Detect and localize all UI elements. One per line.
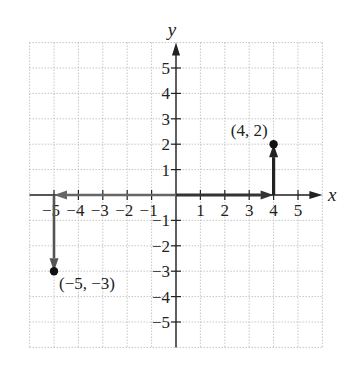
y-axis-arrow-icon — [172, 43, 180, 56]
y-axis-label: y — [166, 19, 177, 40]
data-point — [50, 267, 58, 275]
data-point — [269, 140, 277, 148]
x-tick-label: −4 — [66, 201, 85, 220]
x-tick-label: 1 — [196, 201, 205, 220]
arrowhead-icon — [261, 191, 274, 200]
x-tick-label: −2 — [115, 201, 133, 220]
x-tick-label: −5 — [42, 201, 60, 220]
y-tick-label: 3 — [162, 110, 171, 129]
x-tick-label: 5 — [294, 201, 303, 220]
x-tick-label: −3 — [91, 201, 109, 220]
y-tick-label: −3 — [152, 262, 170, 281]
point-label: (4, 2) — [231, 121, 268, 140]
point-label: (−5, −3) — [59, 274, 115, 293]
arrowhead-icon — [54, 191, 67, 200]
y-tick-label: 4 — [162, 84, 171, 103]
y-tick-label: 1 — [162, 161, 171, 180]
y-tick-label: −5 — [152, 313, 170, 332]
x-tick-label: 4 — [269, 201, 278, 220]
x-tick-label: 2 — [221, 201, 230, 220]
y-tick-label: −2 — [152, 237, 170, 256]
y-tick-label: −1 — [152, 211, 170, 230]
coordinate-plane: −5−4−3−2−11234554321−1−2−3−4−5 (4, 2)(−5… — [0, 0, 355, 381]
x-axis-arrow-icon — [309, 191, 322, 199]
y-tick-label: −4 — [152, 288, 171, 307]
y-tick-label: 5 — [162, 59, 171, 78]
x-tick-label: 3 — [245, 201, 254, 220]
x-axis-label: x — [327, 184, 337, 205]
y-tick-label: 2 — [162, 135, 171, 154]
